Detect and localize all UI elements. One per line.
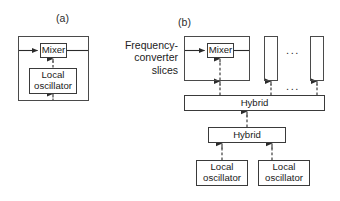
figure-container: (a) Mixer Local oscillator (b) Frequency…	[0, 0, 340, 201]
panel-b-hybrid-top-block: Hybrid	[184, 95, 325, 111]
panel-label-a: (a)	[56, 12, 69, 24]
slice-ellipsis-middle: ...	[286, 80, 300, 92]
panel-b-frequency-converter-slice-n	[310, 36, 324, 81]
panel-a-local-oscillator-block: Local oscillator	[29, 68, 77, 94]
panel-b-local-oscillator-right-block: Local oscillator	[258, 160, 310, 186]
panel-a-mixer-block: Mixer	[40, 43, 67, 58]
panel-b-frequency-converter-slice-2	[264, 36, 278, 81]
panel-label-b: (b)	[178, 16, 191, 28]
panel-b-local-oscillator-left-block: Local oscillator	[196, 160, 248, 186]
panel-b-mixer-block: Mixer	[207, 43, 234, 58]
frequency-converter-slices-label: Frequency- converter slices	[92, 39, 178, 76]
slice-ellipsis-top: ...	[286, 44, 300, 56]
panel-b-hybrid-bottom-block: Hybrid	[208, 127, 286, 143]
